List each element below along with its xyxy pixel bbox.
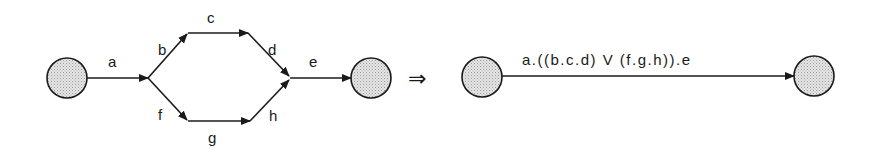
edge-label-d: d <box>268 41 276 58</box>
end-node-left <box>351 58 391 98</box>
edge-label-h: h <box>269 107 277 124</box>
right-graph: a.((b.c.d) V (f.g.h)).e <box>462 51 834 97</box>
implies-arrow-icon: ⇒ <box>408 66 426 91</box>
edge-label-f: f <box>158 106 163 123</box>
edge-label-g: g <box>208 129 216 146</box>
end-node-right <box>794 56 834 96</box>
edge-label-b: b <box>158 41 166 58</box>
diagram-canvas: a b c d f g h e ⇒ a.((b.c.d) V (f.g.h)).… <box>0 0 878 150</box>
edge-b <box>148 34 187 78</box>
left-graph: a b c d f g h e <box>47 9 391 146</box>
edge-label-c: c <box>207 9 215 26</box>
edge-label-a: a <box>108 53 117 70</box>
edge-label-e: e <box>309 53 317 70</box>
start-node-left <box>47 58 87 98</box>
start-node-right <box>462 57 502 97</box>
edge-label-combined: a.((b.c.d) V (f.g.h)).e <box>522 51 692 68</box>
edge-f <box>148 78 187 120</box>
